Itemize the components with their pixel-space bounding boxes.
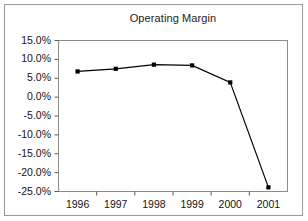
data-point-marker	[152, 63, 156, 67]
x-axis-tick-label: 2000	[210, 198, 250, 210]
y-axis-tick-label: -20.0%	[3, 166, 51, 178]
data-point-marker	[114, 67, 118, 71]
data-point-marker	[75, 69, 79, 73]
x-axis-tick-label: 1999	[172, 198, 212, 210]
x-axis-tick-marks	[97, 192, 250, 196]
y-axis-tick-label: -5.0%	[3, 109, 51, 121]
x-axis-tick-label: 1997	[96, 198, 136, 210]
y-axis-tick-label: -10.0%	[3, 128, 51, 140]
y-axis-tick-label: 15.0%	[3, 34, 51, 46]
data-point-marker	[228, 80, 232, 84]
y-axis-tick-marks	[55, 41, 59, 192]
chart-figure: Operating Margin 15.0%10.0%5.0%0.0%-5.0%…	[0, 0, 308, 221]
plot-area-border	[59, 41, 288, 192]
x-axis-tick-label: 1998	[134, 198, 174, 210]
y-axis-tick-label: -25.0%	[3, 185, 51, 197]
x-axis-tick-label: 1996	[58, 198, 98, 210]
y-axis-tick-label: 10.0%	[3, 52, 51, 64]
y-axis-tick-label: 0.0%	[3, 90, 51, 102]
y-axis-tick-label: -15.0%	[3, 147, 51, 159]
x-axis-tick-label: 2001	[248, 198, 288, 210]
y-axis-tick-label: 5.0%	[3, 71, 51, 83]
data-point-marker	[266, 185, 270, 189]
data-point-marker	[190, 63, 194, 67]
